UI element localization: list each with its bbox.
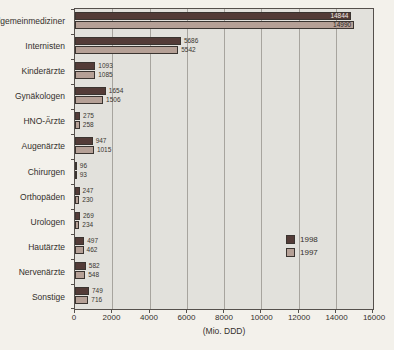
- y-tick: [71, 284, 75, 285]
- bar-1997: [75, 71, 95, 79]
- bar-1998: [75, 162, 77, 170]
- x-axis-labels: 0200040006000800010000120001400016000: [74, 313, 374, 323]
- bar-1997: [75, 246, 84, 254]
- y-tick: [71, 209, 75, 210]
- bar-row: 16541506: [75, 84, 373, 109]
- y-tick: [71, 59, 75, 60]
- value-label-1997: 548: [88, 271, 99, 279]
- value-label-1998: 96: [80, 162, 87, 170]
- value-label-1998: 269: [83, 212, 94, 220]
- value-label-1997: 234: [82, 221, 93, 229]
- legend-label-1998: 1998: [300, 235, 318, 244]
- bar-row: 582548: [75, 259, 373, 284]
- bar-1998: [75, 137, 93, 145]
- bar-row: 275258: [75, 109, 373, 134]
- value-label-1998: 1654: [109, 87, 123, 95]
- bar-chart-figure: AllgemeinmedizinerInternistenKinderärzte…: [0, 0, 394, 350]
- category-label: Chirurgen: [0, 159, 70, 184]
- bar-1997: [75, 221, 79, 229]
- category-label: Kinderärzte: [0, 58, 70, 83]
- bar-row: 9693: [75, 159, 373, 184]
- value-label-1997: 93: [80, 171, 87, 179]
- bar-1997: [75, 146, 94, 154]
- category-label: Internisten: [0, 33, 70, 58]
- value-label-1998: 749: [92, 287, 103, 295]
- bar-row: 1484414990: [75, 9, 373, 34]
- y-tick: [71, 159, 75, 160]
- bar-1997: [75, 96, 103, 104]
- category-label: Allgemeinmediziner: [0, 8, 70, 33]
- legend-swatch-1998: [286, 235, 295, 244]
- category-label: Orthopäden: [0, 184, 70, 209]
- y-tick: [71, 184, 75, 185]
- bar-1998: [75, 62, 95, 70]
- category-label: Sonstige: [0, 285, 70, 310]
- bar-1998: [75, 187, 80, 195]
- value-label-1998: 275: [83, 112, 94, 120]
- bar-1998: [75, 37, 181, 45]
- bar-1998: [75, 12, 351, 20]
- y-tick: [71, 9, 75, 10]
- y-tick: [71, 109, 75, 110]
- value-label-1998: 1093: [98, 62, 112, 70]
- legend: 1998 1997: [286, 235, 318, 257]
- bar-1997: [75, 271, 85, 279]
- bar-1997: [75, 121, 80, 129]
- value-label-1997: 230: [82, 196, 93, 204]
- bar-1997: [75, 46, 178, 54]
- bar-row: 749716: [75, 284, 373, 309]
- bar-rows: 1484414990568655421093108516541506275258…: [75, 9, 373, 309]
- value-label-1997: 258: [83, 121, 94, 129]
- bar-1997: [75, 21, 354, 29]
- value-label-1997: 1085: [98, 71, 112, 79]
- x-tick-label: 4000: [140, 313, 158, 322]
- bar-1998: [75, 87, 106, 95]
- plot-area: 1484414990568655421093108516541506275258…: [74, 8, 374, 310]
- bar-row: 10931085: [75, 59, 373, 84]
- y-tick: [71, 84, 75, 85]
- value-label-1997: 5542: [181, 46, 195, 54]
- bar-1998: [75, 262, 86, 270]
- value-label-1998: 5686: [184, 37, 198, 45]
- x-tick-label: 16000: [363, 313, 385, 322]
- category-label: HNO-Ärzte: [0, 109, 70, 134]
- x-tick-label: 8000: [215, 313, 233, 322]
- y-tick: [71, 234, 75, 235]
- value-label-1998: 14844: [330, 12, 348, 20]
- category-label: Hautärzte: [0, 234, 70, 259]
- bar-1998: [75, 212, 80, 220]
- category-label: Gynäkologen: [0, 83, 70, 108]
- bar-row: 269234: [75, 209, 373, 234]
- x-tick-label: 0: [72, 313, 76, 322]
- legend-label-1997: 1997: [300, 248, 318, 257]
- bar-row: 56865542: [75, 34, 373, 59]
- category-label: Nervenärzte: [0, 260, 70, 285]
- bar-row: 497462: [75, 234, 373, 259]
- value-label-1997: 716: [91, 296, 102, 304]
- bar-1997: [75, 196, 79, 204]
- bar-row: 247230: [75, 184, 373, 209]
- legend-item-1998: 1998: [286, 235, 318, 244]
- y-tick: [71, 308, 75, 309]
- legend-item-1997: 1997: [286, 248, 318, 257]
- value-label-1997: 1506: [106, 96, 120, 104]
- value-label-1997: 14990: [333, 21, 351, 29]
- x-tick-label: 2000: [103, 313, 121, 322]
- x-tick-label: 12000: [288, 313, 310, 322]
- y-axis-labels: AllgemeinmedizinerInternistenKinderärzte…: [0, 8, 70, 310]
- x-tick-label: 14000: [325, 313, 347, 322]
- bar-1998: [75, 112, 80, 120]
- bar-1997: [75, 296, 88, 304]
- value-label-1997: 462: [87, 246, 98, 254]
- value-label-1998: 582: [89, 262, 100, 270]
- y-tick: [71, 34, 75, 35]
- bar-row: 9471015: [75, 134, 373, 159]
- bar-1997: [75, 171, 77, 179]
- bar-1998: [75, 237, 84, 245]
- y-tick: [71, 134, 75, 135]
- value-label-1998: 497: [87, 237, 98, 245]
- value-label-1997: 1015: [97, 146, 111, 154]
- legend-swatch-1997: [286, 248, 295, 257]
- bar-1998: [75, 287, 89, 295]
- category-label: Urologen: [0, 209, 70, 234]
